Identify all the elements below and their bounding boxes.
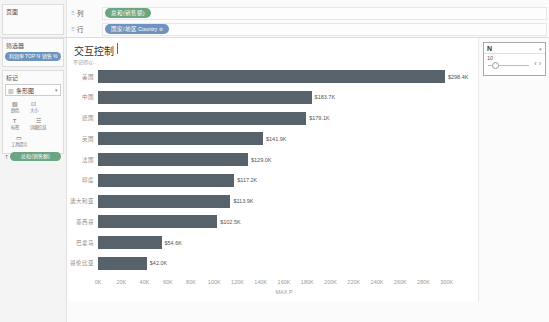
category-label: 法国 (82, 156, 94, 164)
parameter-slider-area: 10 ‹› (484, 54, 545, 72)
detail-button[interactable]: ☰ 详细信息 (24, 115, 52, 132)
columns-pill[interactable]: 总和(销售额) (105, 8, 151, 18)
columns-shelf-header: ⠿ 列 (68, 8, 102, 18)
detail-button-label: 详细信息 (30, 125, 46, 130)
x-tick-label: 200K (324, 279, 337, 285)
marks-label: 标记 (3, 71, 63, 83)
filter-pill[interactable]: 利润率 TOP N 销售 % (5, 52, 61, 61)
grid-icon: ⠿ (71, 26, 75, 32)
x-tick-label: 260K (394, 279, 407, 285)
value-label: $179.1K (309, 115, 330, 121)
rows-pill[interactable]: 国家/地区 Country⊘ (105, 24, 169, 34)
bar[interactable] (98, 257, 147, 270)
pill-label-icon: T (5, 154, 8, 160)
columns-shelf-row: ⠿ 列 总和(销售额) (68, 6, 547, 20)
mark-type-value: 条形图 (16, 86, 34, 95)
tooltip-icon: ▭ (16, 135, 22, 142)
exclude-badge-icon: ⊘ (159, 26, 163, 32)
grid-icon: ⠿ (71, 10, 75, 16)
x-axis-title: MAX P (98, 289, 470, 295)
category-label: 墨西哥 (76, 218, 94, 226)
rows-shelf-row: ⠿ 行 国家/地区 Country⊘ (68, 22, 547, 36)
bar[interactable] (98, 236, 162, 249)
text-cursor (117, 43, 118, 54)
parameter-header: N ▾ (484, 43, 545, 54)
x-axis[interactable]: 0K20K40K60K80K100K120K140K160K180K200K22… (98, 279, 470, 287)
category-label: 巴拿马 (76, 239, 94, 247)
detail-icon: ☰ (36, 118, 41, 125)
bar[interactable] (98, 132, 263, 145)
chevron-down-icon[interactable]: ▾ (539, 46, 542, 52)
x-tick-label: 240K (371, 279, 384, 285)
slider-steppers[interactable]: ‹› (534, 60, 543, 67)
bar[interactable] (98, 215, 217, 228)
sheet-title[interactable]: 交互控制 (74, 43, 114, 58)
value-label: $54.6K (165, 240, 182, 246)
value-label: $117.2K (237, 177, 257, 183)
tooltip-button-label: 工具提示 (11, 142, 27, 147)
bar[interactable] (98, 174, 234, 187)
pages-label: 页面 (3, 5, 63, 17)
label-button[interactable]: T 标签 (5, 115, 24, 132)
rows-shelf[interactable]: 国家/地区 Country⊘ (102, 23, 547, 36)
bar[interactable] (98, 195, 230, 208)
x-tick-label: 120K (231, 279, 244, 285)
value-label: $42.0K (150, 260, 167, 266)
x-tick-label: 20K (116, 279, 126, 285)
color-icon: ▧ (12, 101, 18, 108)
marks-field-pill[interactable]: 总和(销售额) (10, 152, 61, 161)
columns-shelf[interactable]: 总和(销售额) (102, 7, 547, 20)
pages-card: 页面 (2, 4, 64, 35)
tableau-workspace: 页面 筛选器 利润率 TOP N 销售 % 标记 ▥ 条形图 ▾ ▧ 颜色 ⊡ … (0, 0, 549, 322)
worksheet: 交互控制 不记得以.. 美国$298.4K中国$183.7K德国$179.1K英… (68, 38, 479, 302)
rows-shelf-label: 行 (77, 24, 84, 34)
label-icon: T (13, 118, 17, 125)
chevron-down-icon: ▾ (55, 87, 58, 93)
bar[interactable] (98, 112, 306, 125)
bar-row: 法国$129.0K (98, 150, 470, 169)
size-button-label: 大小 (30, 108, 38, 113)
x-tick-label: 160K (278, 279, 291, 285)
bar-row: 澳大利亚$113.9K (98, 192, 470, 211)
x-tick-label: 220K (347, 279, 360, 285)
parameter-value: 10 (487, 55, 493, 61)
bar[interactable] (98, 70, 445, 83)
bar-row: 中国$183.7K (98, 88, 470, 107)
value-label: $183.7K (315, 94, 336, 100)
parameter-title: N (487, 45, 492, 52)
slider-handle[interactable] (492, 62, 499, 69)
value-label: $113.9K (233, 198, 253, 204)
plot-area: 美国$298.4K中国$183.7K德国$179.1K英国$141.9K法国$1… (98, 67, 470, 273)
x-tick-label: 100K (208, 279, 221, 285)
stepper-right-icon[interactable]: › (539, 60, 543, 67)
category-label: 德国 (82, 114, 94, 122)
size-button[interactable]: ⊡ 大小 (24, 98, 43, 115)
x-tick-label: 180K (301, 279, 314, 285)
tooltip-button[interactable]: ▭ 工具提示 (5, 132, 33, 149)
color-button-label: 颜色 (11, 108, 19, 113)
category-label: 美国 (82, 73, 94, 81)
bar-chart-icon: ▥ (8, 87, 14, 94)
mark-type-dropdown[interactable]: ▥ 条形图 ▾ (5, 84, 61, 96)
bar-row: 巴拿马$54.6K (98, 233, 470, 252)
bar-row: 墨西哥$102.5K (98, 212, 470, 231)
category-label: 中国 (82, 93, 94, 101)
category-label: 澳大利亚 (70, 197, 94, 205)
bar-row: 德国$179.1K (98, 109, 470, 128)
value-label: $141.9K (266, 136, 287, 142)
sheet-subtitle: 不记得以.. (73, 58, 96, 65)
bar[interactable] (98, 91, 312, 104)
marks-pill-row: T 总和(销售额) (5, 152, 61, 161)
bar[interactable] (98, 153, 248, 166)
bar-row: 哥伦比亚$42.0K (98, 254, 470, 273)
x-tick-label: 80K (186, 279, 196, 285)
filters-label: 筛选器 (3, 39, 63, 51)
x-tick-label: 60K (163, 279, 173, 285)
bar-row: 美国$298.4K (98, 67, 470, 86)
value-label: $129.0K (251, 157, 272, 163)
left-panel: 页面 筛选器 利润率 TOP N 销售 % 标记 ▥ 条形图 ▾ ▧ 颜色 ⊡ … (0, 0, 67, 322)
x-tick-label: 0K (95, 279, 102, 285)
value-label: $298.4K (448, 74, 469, 80)
parameter-control: N ▾ 10 ‹› (483, 42, 546, 76)
color-button[interactable]: ▧ 颜色 (5, 98, 24, 115)
